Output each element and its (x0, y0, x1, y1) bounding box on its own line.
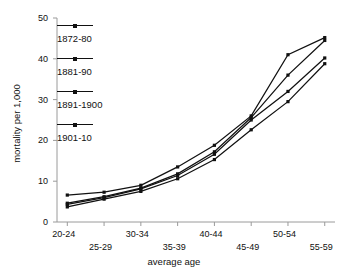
y-tick-label: 40 (26, 54, 48, 64)
x-axis-title: average age (0, 256, 348, 267)
legend-label: 1881-90 (57, 66, 92, 77)
mortality-line-chart: 01020304050 20-2425-2930-3435-3940-4445-… (0, 0, 348, 272)
data-point (213, 144, 216, 147)
data-point (139, 184, 142, 187)
x-tick-label: 40-44 (199, 229, 222, 239)
legend-marker-icon (73, 123, 77, 127)
x-tick-label: 35-39 (163, 242, 186, 252)
data-point (250, 118, 253, 121)
data-point (102, 191, 105, 194)
legend-marker-icon (73, 24, 77, 28)
legend-label: 1901-10 (57, 132, 92, 143)
series-line-1891-1900 (67, 58, 324, 204)
data-point (286, 90, 289, 93)
data-point (176, 174, 179, 177)
data-point (213, 153, 216, 156)
y-tick-label: 30 (26, 95, 48, 105)
data-point (323, 56, 326, 59)
x-tick-label: 50-54 (273, 229, 296, 239)
series-line-1901-10 (67, 64, 324, 207)
data-point (286, 74, 289, 77)
data-point (323, 36, 326, 39)
legend-line-swatch (57, 124, 93, 125)
data-point (176, 165, 179, 168)
data-point (250, 128, 253, 131)
x-tick-label: 55-59 (310, 242, 333, 252)
y-tick-label: 50 (26, 13, 48, 23)
legend-line-swatch (57, 25, 93, 26)
data-point (66, 205, 69, 208)
y-axis-title: mortality per 1,000 (11, 64, 22, 184)
y-tick-label: 0 (26, 217, 48, 227)
x-tick-label: 30-34 (126, 229, 149, 239)
series-line-1881-90 (67, 40, 324, 203)
data-point (323, 39, 326, 42)
data-point (286, 53, 289, 56)
y-tick-label: 20 (26, 135, 48, 145)
legend-label: 1891-1900 (57, 99, 102, 110)
legend-marker-icon (73, 57, 77, 61)
data-point (139, 190, 142, 193)
legend-line-swatch (57, 91, 93, 92)
legend-marker-icon (73, 90, 77, 94)
data-point (102, 198, 105, 201)
data-point (176, 177, 179, 180)
x-tick-label: 20-24 (52, 229, 75, 239)
legend-label: 1872-80 (57, 33, 92, 44)
x-tick-label: 25-29 (89, 242, 112, 252)
x-tick-label: 45-49 (236, 242, 259, 252)
series-line-1872-80 (67, 38, 324, 195)
legend-line-swatch (57, 58, 93, 59)
y-tick-label: 10 (26, 176, 48, 186)
data-point (213, 158, 216, 161)
data-point (286, 100, 289, 103)
data-point (323, 62, 326, 65)
data-point (66, 193, 69, 196)
